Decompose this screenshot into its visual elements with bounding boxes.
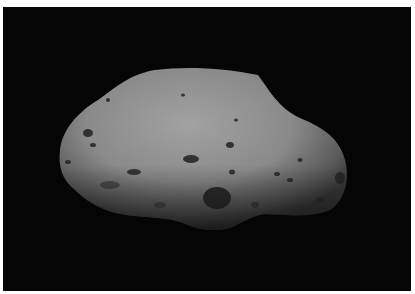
asteroid-image (0, 0, 415, 294)
asteroid (60, 68, 347, 230)
